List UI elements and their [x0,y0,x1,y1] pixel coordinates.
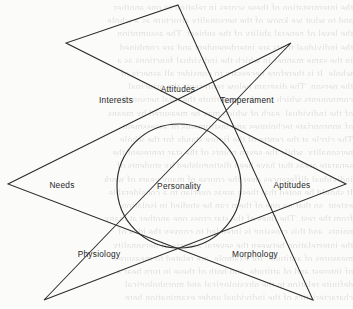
diagram-label-interests: Interests [99,95,133,105]
diagram-label-morphology: Morphology [232,249,278,259]
personality-star-figure: the interpretation of these scores in re… [0,0,353,309]
diagram-label-attitudes: Attitudes [161,84,196,94]
diagram-label-needs: Needs [49,180,74,190]
diagram-label-personality: Personality [157,181,201,191]
diagram-label-aptitudes: Aptitudes [274,180,311,190]
diagram-label-layer: AttitudesInterestsTemperamentNeedsPerson… [0,0,353,309]
diagram-label-physiology: Physiology [78,249,121,259]
diagram-label-temperament: Temperament [220,95,273,105]
